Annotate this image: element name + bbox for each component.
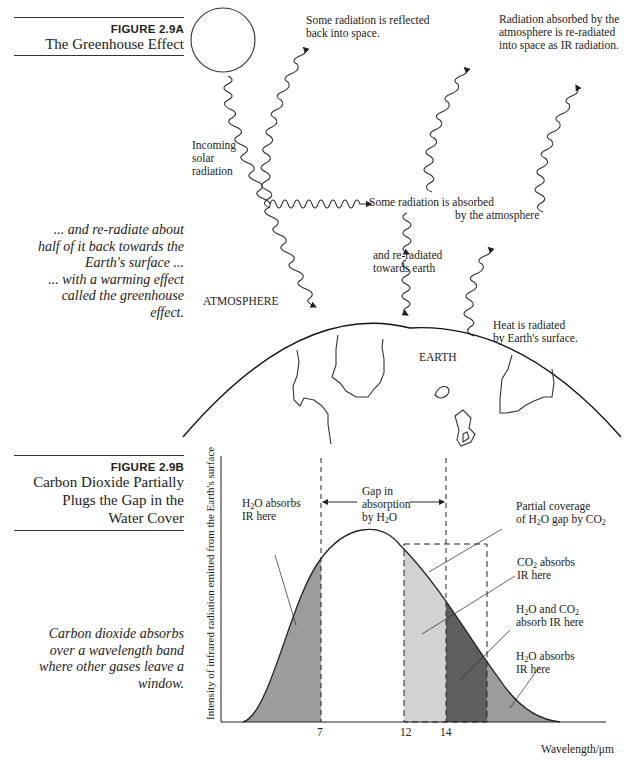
partial-coverage-label: Partial coverageof H2O gap by CO2 [516, 500, 606, 526]
x-tick-7: 7 [317, 726, 323, 739]
x-tick-14: 14 [440, 726, 452, 739]
h2o-band-left [230, 500, 321, 730]
h2o-absorbs-right-label: H2O absorbsIR here [516, 650, 575, 676]
x-axis-label: Wavelength/μm [541, 743, 614, 756]
x-tick-12: 12 [400, 726, 412, 739]
absorption-chart [0, 0, 636, 761]
h2o-absorbs-left-label: H2O absorbsIR here [242, 497, 301, 523]
leader-line [275, 555, 296, 625]
leader-line [429, 529, 502, 572]
y-axis-label: Intensity of infrared radiation emitted … [204, 450, 217, 720]
co2-absorbs-label: CO2 absorbsIR here [517, 556, 575, 582]
co2-band [404, 500, 446, 730]
h2o-co2-label: H2O and CO2absorb IR here [516, 603, 584, 629]
gap-label: Gap inabsorptionby H2O [362, 485, 411, 524]
